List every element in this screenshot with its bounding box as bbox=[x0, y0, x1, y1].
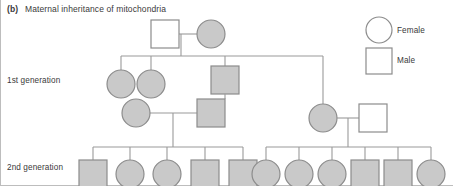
pedigree-chart bbox=[1, 0, 453, 186]
gen2-right-female-3-circle bbox=[318, 160, 346, 186]
gen2-right-male-4-square bbox=[351, 160, 379, 186]
pedigree-figure: (b) Maternal inheritance of mitochondria… bbox=[0, 0, 453, 186]
gen2-right-male-5-square bbox=[384, 160, 412, 186]
gen1-female-1-circle bbox=[107, 70, 135, 98]
gen2-left-female-2-circle bbox=[116, 160, 144, 186]
left-spouse-female-circle bbox=[122, 99, 150, 127]
gen2-left-male-4-square bbox=[191, 160, 219, 186]
founder-male-square bbox=[151, 20, 179, 48]
founder-female-circle bbox=[197, 20, 225, 48]
right-mating-group bbox=[266, 118, 431, 160]
legend-male-square bbox=[366, 48, 392, 74]
gen2-right-female-2-circle bbox=[285, 160, 313, 186]
gen1-female-2-circle bbox=[137, 70, 165, 98]
gen1-male-3-square bbox=[211, 66, 239, 94]
gen2-left-female-3-circle bbox=[153, 160, 181, 186]
gen2-right-female-1-circle bbox=[252, 160, 280, 186]
legend-male-label: Male bbox=[397, 56, 415, 65]
right-spouse-male-square bbox=[359, 104, 387, 132]
legend-female-label: Female bbox=[397, 26, 425, 35]
gen2-right-female-6-circle bbox=[417, 160, 445, 186]
left-mating-male-square bbox=[197, 99, 225, 127]
gen2-left-male-1-square bbox=[79, 160, 107, 186]
legend-female-circle bbox=[366, 17, 392, 43]
gen1-female-4-circle bbox=[309, 104, 337, 132]
